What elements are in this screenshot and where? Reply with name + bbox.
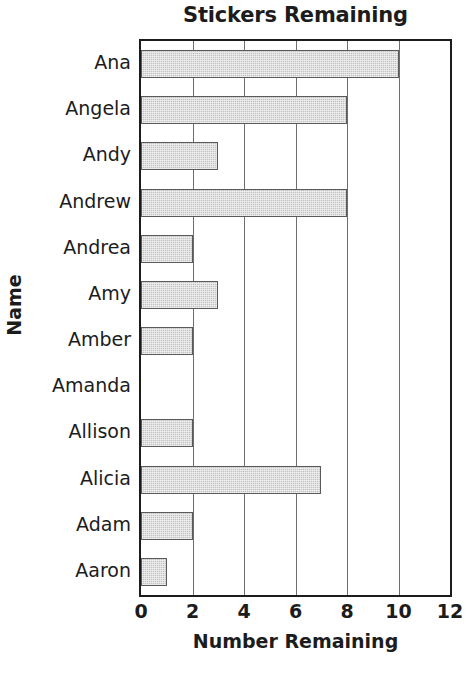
chart-title: Stickers Remaining	[139, 0, 452, 34]
bar-row	[141, 364, 450, 410]
bar-amber	[141, 327, 193, 355]
bar-row	[141, 503, 450, 549]
x-tick-label-8: 8	[327, 600, 367, 622]
x-tick-label-12: 12	[430, 600, 466, 622]
bar-row	[141, 226, 450, 272]
bar-row	[141, 180, 450, 226]
bar-row	[141, 41, 450, 87]
x-tick-label-6: 6	[276, 600, 316, 622]
y-tick-label-andy: Andy	[1, 145, 131, 164]
bar-amy	[141, 281, 218, 309]
bar-ana	[141, 50, 399, 78]
bar-row	[141, 549, 450, 595]
y-tick-label-allison: Allison	[1, 422, 131, 441]
y-tick-label-andrew: Andrew	[1, 192, 131, 211]
bar-row	[141, 133, 450, 179]
x-tick-label-4: 4	[224, 600, 264, 622]
y-tick-label-aaron: Aaron	[1, 561, 131, 580]
bar-row	[141, 318, 450, 364]
bar-adam	[141, 512, 193, 540]
x-tick-label-2: 2	[173, 600, 213, 622]
y-tick-label-amanda: Amanda	[1, 376, 131, 395]
y-tick-label-ana: Ana	[1, 53, 131, 72]
bar-angela	[141, 96, 347, 124]
x-axis-tick-labels: 024681012	[139, 600, 452, 626]
y-tick-label-adam: Adam	[1, 515, 131, 534]
bar-row	[141, 410, 450, 456]
y-axis-tick-labels: AnaAngelaAndyAndrewAndreaAmyAmberAmandaA…	[0, 39, 131, 597]
bar-row	[141, 457, 450, 503]
bar-andy	[141, 142, 218, 170]
bar-row	[141, 272, 450, 318]
x-axis-title: Number Remaining	[139, 630, 452, 652]
y-tick-label-andrea: Andrea	[1, 238, 131, 257]
y-tick-label-alicia: Alicia	[1, 469, 131, 488]
bar-chart: Stickers Remaining Name AnaAngelaAndyAnd…	[0, 0, 466, 686]
bar-aaron	[141, 558, 167, 586]
y-tick-label-angela: Angela	[1, 99, 131, 118]
bar-row	[141, 87, 450, 133]
y-tick-label-amy: Amy	[1, 284, 131, 303]
x-tick-label-10: 10	[379, 600, 419, 622]
bar-alicia	[141, 466, 321, 494]
bar-andrew	[141, 189, 347, 217]
y-tick-label-amber: Amber	[1, 330, 131, 349]
x-tick-label-0: 0	[121, 600, 161, 622]
plot-inner	[141, 41, 450, 595]
bar-allison	[141, 419, 193, 447]
bar-andrea	[141, 235, 193, 263]
plot-area	[139, 39, 452, 597]
